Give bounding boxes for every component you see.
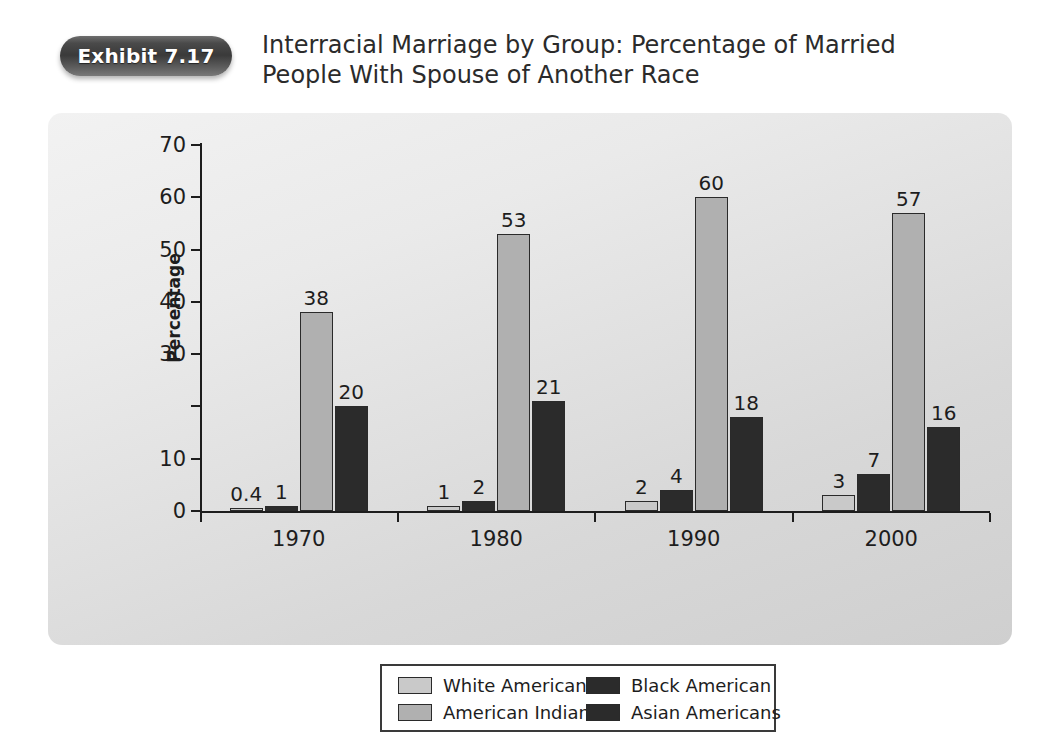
legend-column-right: Black AmericanAsian Americans — [586, 672, 781, 726]
legend-swatch-icon — [398, 677, 432, 694]
bar — [497, 234, 530, 511]
y-tick-label: 60 — [159, 185, 186, 209]
bar — [927, 427, 960, 511]
bar — [625, 501, 658, 511]
chart-legend: White AmericansAmerican Indians Black Am… — [380, 664, 776, 732]
legend-item: Asian Americans — [586, 699, 781, 726]
bar — [892, 213, 925, 511]
x-axis-label: 1980 — [470, 527, 523, 551]
x-tick-mark — [989, 513, 991, 522]
y-tick-label: 50 — [159, 238, 186, 262]
legend-column-left: White AmericansAmerican Indians — [398, 672, 599, 726]
y-tick-mark — [191, 249, 200, 251]
bar-value-label: 4 — [670, 464, 683, 488]
exhibit-header: Exhibit 7.17 Interracial Marriage by Gro… — [0, 0, 1059, 113]
y-tick-label: 40 — [159, 290, 186, 314]
chart-title: Interracial Marriage by Group: Percentag… — [262, 30, 962, 90]
bar-value-label: 2 — [472, 475, 485, 499]
bar-value-label: 18 — [734, 391, 759, 415]
bar — [265, 506, 298, 511]
exhibit-badge-label: Exhibit 7.17 — [77, 44, 214, 68]
x-axis-label: 2000 — [865, 527, 918, 551]
legend-swatch-icon — [586, 704, 620, 721]
bar-value-label: 21 — [536, 375, 561, 399]
y-axis-line — [200, 143, 202, 513]
bar-value-label: 7 — [867, 448, 880, 472]
legend-label: Asian Americans — [631, 702, 781, 723]
bar-value-label: 57 — [896, 187, 921, 211]
exhibit-badge: Exhibit 7.17 — [60, 36, 232, 76]
bar-value-label: 2 — [635, 475, 648, 499]
chart-panel: Percentage 010203040506070 0.41382012532… — [48, 113, 1012, 645]
y-tick-mark — [191, 510, 200, 512]
y-tick-label: 10 — [159, 447, 186, 471]
chart-title-line-2: People With Spouse of Another Race — [262, 60, 962, 90]
legend-item: American Indians — [398, 699, 599, 726]
y-tick-mark — [191, 196, 200, 198]
bar — [532, 401, 565, 511]
bar-value-label: 3 — [832, 469, 845, 493]
bar-value-label: 1 — [275, 480, 288, 504]
bar — [300, 312, 333, 511]
y-tick-label: 30 — [159, 342, 186, 366]
plot-area: Percentage 010203040506070 0.41382012532… — [200, 143, 990, 513]
y-tick-mark — [191, 458, 200, 460]
legend-label: Black American — [631, 675, 771, 696]
x-tick-mark — [594, 513, 596, 522]
bar-value-label: 16 — [931, 401, 956, 425]
legend-swatch-icon — [586, 677, 620, 694]
bar — [427, 506, 460, 511]
bar-value-label: 38 — [304, 286, 329, 310]
bar-value-label: 53 — [501, 208, 526, 232]
y-tick-mark — [191, 405, 200, 407]
bar-value-label: 60 — [699, 171, 724, 195]
bar — [822, 495, 855, 511]
legend-swatch-icon — [398, 704, 432, 721]
y-tick-mark — [191, 301, 200, 303]
x-axis-label: 1970 — [272, 527, 325, 551]
x-tick-mark — [200, 513, 202, 522]
x-tick-mark — [397, 513, 399, 522]
legend-label: American Indians — [443, 702, 599, 723]
bar — [857, 474, 890, 511]
x-tick-mark — [792, 513, 794, 522]
bar-value-label: 0.4 — [230, 482, 262, 506]
y-tick-label: 70 — [159, 133, 186, 157]
y-tick-label: 0 — [173, 499, 186, 523]
y-tick-mark — [191, 144, 200, 146]
legend-item: White Americans — [398, 672, 599, 699]
bar — [230, 508, 263, 511]
bar — [695, 197, 728, 511]
bar — [730, 417, 763, 511]
bar — [462, 501, 495, 511]
y-tick-mark — [191, 353, 200, 355]
x-axis-label: 1990 — [667, 527, 720, 551]
bar — [335, 406, 368, 511]
legend-item: Black American — [586, 672, 781, 699]
bar — [660, 490, 693, 511]
legend-label: White Americans — [443, 675, 596, 696]
chart-title-line-1: Interracial Marriage by Group: Percentag… — [262, 30, 962, 60]
bar-value-label: 20 — [339, 380, 364, 404]
bar-value-label: 1 — [437, 480, 450, 504]
